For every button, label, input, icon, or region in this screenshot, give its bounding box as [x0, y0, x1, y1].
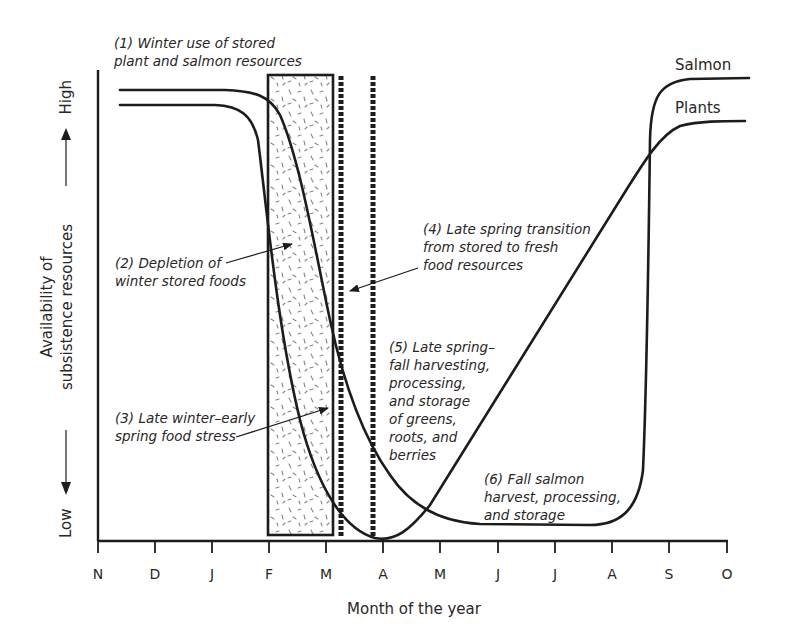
- tick-label-jan: J: [209, 566, 214, 582]
- plants-curve: [120, 105, 745, 539]
- annotation-5-line-3: processing,: [388, 375, 466, 391]
- tick-label-nov: N: [93, 566, 103, 582]
- annotation-1-line-1: (1) Winter use of stored: [114, 35, 275, 51]
- subsistence-availability-chart: N D J F M A M J J A S O Month of the yea…: [0, 0, 785, 641]
- tick-label-apr: A: [378, 566, 388, 582]
- y-low-label: Low: [57, 508, 75, 538]
- tick-label-feb: F: [265, 566, 273, 582]
- annotation-1-line-2: plant and salmon resources: [113, 53, 302, 69]
- annotation-5-line-4: and storage: [389, 393, 470, 409]
- annotation-4-line-1: (4) Late spring transition: [423, 221, 591, 237]
- annotation-2: (2) Depletion of winter stored foods: [115, 244, 292, 289]
- annotation-6: (6) Fall salmon harvest, processing, and…: [484, 471, 621, 523]
- annotation-5-line-6: roots, and: [389, 429, 458, 445]
- x-axis-title: Month of the year: [347, 600, 482, 618]
- annotation-5-line-5: of greens,: [389, 411, 457, 427]
- annotation-4-arrow: [350, 268, 418, 291]
- down-arrow-icon: [61, 482, 71, 495]
- annotation-5-line-1: (5) Late spring–: [389, 339, 495, 355]
- tick-label-mar: M: [320, 566, 332, 582]
- annotation-4-line-2: from stored to fresh: [423, 239, 558, 255]
- annotation-2-line-1: (2) Depletion of: [115, 255, 223, 271]
- y-axis-title-line1: Availability of: [38, 256, 56, 358]
- tick-label-sep: S: [665, 566, 674, 582]
- annotation-3-line-1: (3) Late winter–early: [115, 410, 256, 426]
- x-axis-ticks: [98, 541, 727, 553]
- tick-label-may: M: [434, 566, 446, 582]
- annotation-6-line-1: (6) Fall salmon: [484, 471, 584, 487]
- annotation-3-line-2: spring food stress: [115, 428, 236, 444]
- tick-label-jun: J: [495, 566, 500, 582]
- tick-label-aug: A: [607, 566, 617, 582]
- annotation-5-line-7: berries: [389, 447, 436, 463]
- annotation-6-line-3: and storage: [484, 507, 565, 523]
- y-axis-label-group: High Low Availability of subsistence res…: [38, 80, 76, 538]
- annotation-1: (1) Winter use of stored plant and salmo…: [113, 35, 302, 69]
- annotation-6-line-2: harvest, processing,: [484, 489, 621, 505]
- salmon-series-label: Salmon: [675, 56, 731, 74]
- plants-series-label: Plants: [675, 99, 721, 117]
- annotation-4: (4) Late spring transition from stored t…: [350, 221, 591, 291]
- x-axis-tick-labels: N D J F M A M J J A S O: [93, 566, 733, 582]
- tick-label-jul: J: [552, 566, 557, 582]
- annotation-5-line-2: fall harvesting,: [389, 357, 490, 373]
- annotation-5: (5) Late spring– fall harvesting, proces…: [388, 339, 495, 463]
- y-high-label: High: [57, 80, 75, 114]
- annotation-2-line-2: winter stored foods: [115, 273, 246, 289]
- y-axis-title-line2: subsistence resources: [58, 224, 76, 390]
- up-arrow-icon: [61, 128, 71, 140]
- annotation-4-line-3: food resources: [423, 257, 523, 273]
- tick-label-oct: O: [721, 566, 732, 582]
- tick-label-dec: D: [150, 566, 161, 582]
